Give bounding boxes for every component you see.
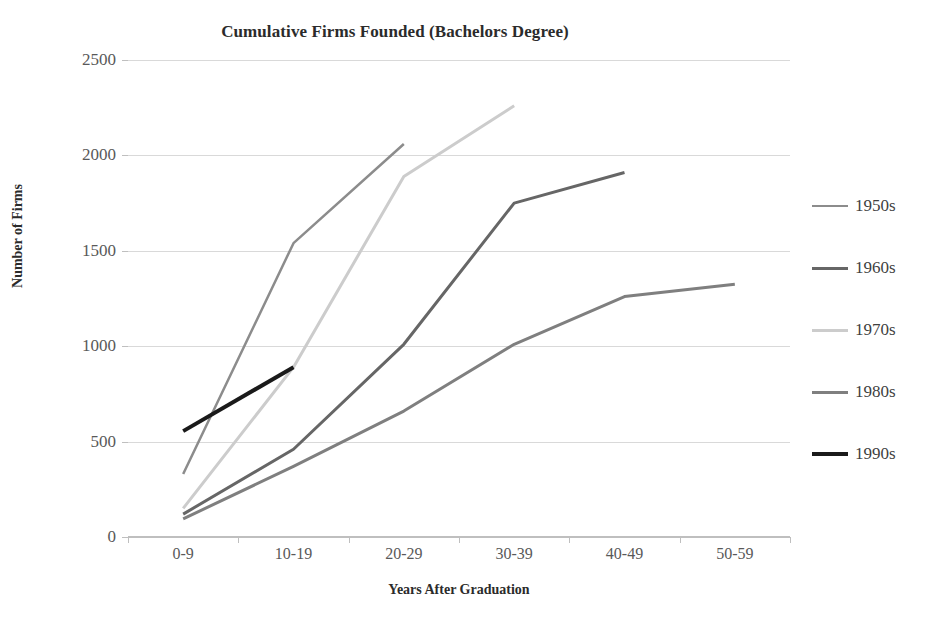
x-tick-mark xyxy=(790,537,791,543)
chart-container: Cumulative Firms Founded (Bachelors Degr… xyxy=(0,0,932,626)
legend-item-1990s[interactable]: 1990s xyxy=(812,423,932,485)
legend-swatch-icon xyxy=(812,452,848,456)
x-tick-mark xyxy=(680,537,681,543)
y-tick-label: 500 xyxy=(91,432,117,452)
x-tick-label: 20-29 xyxy=(385,545,422,563)
legend-swatch-icon xyxy=(812,205,848,208)
x-tick-mark xyxy=(238,537,239,543)
series-line-1950s xyxy=(183,144,404,474)
x-tick-label: 10-19 xyxy=(275,545,312,563)
y-tick-label: 1500 xyxy=(82,241,116,261)
series-line-1970s xyxy=(183,106,514,509)
y-tick-label: 2000 xyxy=(82,145,116,165)
legend-swatch-icon xyxy=(812,391,848,394)
x-tick-mark xyxy=(128,537,129,543)
series-lines xyxy=(128,60,790,537)
legend-item-1970s[interactable]: 1970s xyxy=(812,299,932,361)
legend-swatch-icon xyxy=(812,329,848,332)
x-tick-mark xyxy=(569,537,570,543)
y-tick-label: 2500 xyxy=(82,50,116,70)
y-tick-label: 1000 xyxy=(82,336,116,356)
x-axis-tick-labels: 0-910-1920-2930-3940-4950-59 xyxy=(128,545,790,573)
x-axis-title: Years After Graduation xyxy=(128,582,790,598)
chart-title: Cumulative Firms Founded (Bachelors Degr… xyxy=(0,22,790,42)
y-tick-label: 0 xyxy=(108,527,117,547)
x-tick-label: 40-49 xyxy=(606,545,643,563)
x-tick-label: 50-59 xyxy=(716,545,753,563)
legend-label: 1980s xyxy=(855,382,896,402)
legend-label: 1970s xyxy=(855,320,896,340)
x-tick-mark xyxy=(459,537,460,543)
legend-item-1950s[interactable]: 1950s xyxy=(812,175,932,237)
x-tick-label: 0-9 xyxy=(172,545,193,563)
series-line-1990s xyxy=(183,367,293,431)
y-axis-title: Number of Firms xyxy=(10,136,26,336)
legend-label: 1960s xyxy=(855,258,896,278)
series-line-1960s xyxy=(183,173,624,515)
legend-item-1960s[interactable]: 1960s xyxy=(812,237,932,299)
legend-swatch-icon xyxy=(812,267,848,270)
chart-legend: 1950s1960s1970s1980s1990s xyxy=(812,175,932,485)
legend-item-1980s[interactable]: 1980s xyxy=(812,361,932,423)
x-tick-label: 30-39 xyxy=(495,545,532,563)
x-tick-mark xyxy=(349,537,350,543)
plot-area xyxy=(128,60,790,537)
legend-label: 1990s xyxy=(855,444,896,464)
legend-label: 1950s xyxy=(855,196,896,216)
